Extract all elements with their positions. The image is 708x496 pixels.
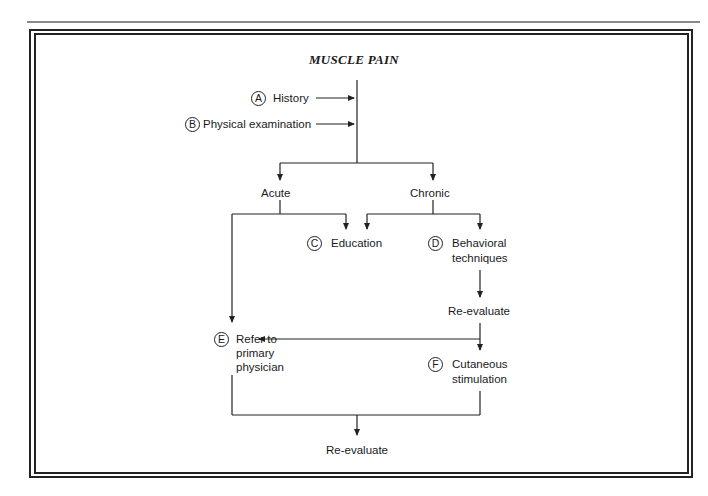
behavioral-label-line1: Behavioral — [452, 236, 506, 251]
refer-label-line3: physician — [236, 360, 284, 375]
history-label: History — [273, 91, 309, 106]
refer-label-line1: Refer to — [236, 332, 277, 347]
cutaneous-label-line2: stimulation — [452, 372, 507, 387]
letter-d-icon: D — [428, 236, 443, 251]
reevaluate-final-label: Re-evaluate — [326, 443, 388, 458]
letter-b-icon: B — [185, 117, 200, 132]
cutaneous-label-line1: Cutaneous — [452, 357, 508, 372]
chronic-label: Chronic — [410, 186, 450, 201]
acute-label: Acute — [261, 186, 290, 201]
letter-e-icon: E — [214, 332, 229, 347]
letter-f-icon: F — [428, 357, 443, 372]
physical-exam-label: Physical examination — [203, 117, 311, 132]
reevaluate-mid-label: Re-evaluate — [448, 304, 510, 319]
letter-a-icon: A — [251, 91, 266, 106]
letter-c-icon: C — [307, 236, 322, 251]
chart-title: MUSCLE PAIN — [0, 52, 708, 68]
refer-label-line2: primary — [236, 346, 274, 361]
education-label: Education — [331, 236, 382, 251]
behavioral-label-line2: techniques — [452, 251, 508, 266]
